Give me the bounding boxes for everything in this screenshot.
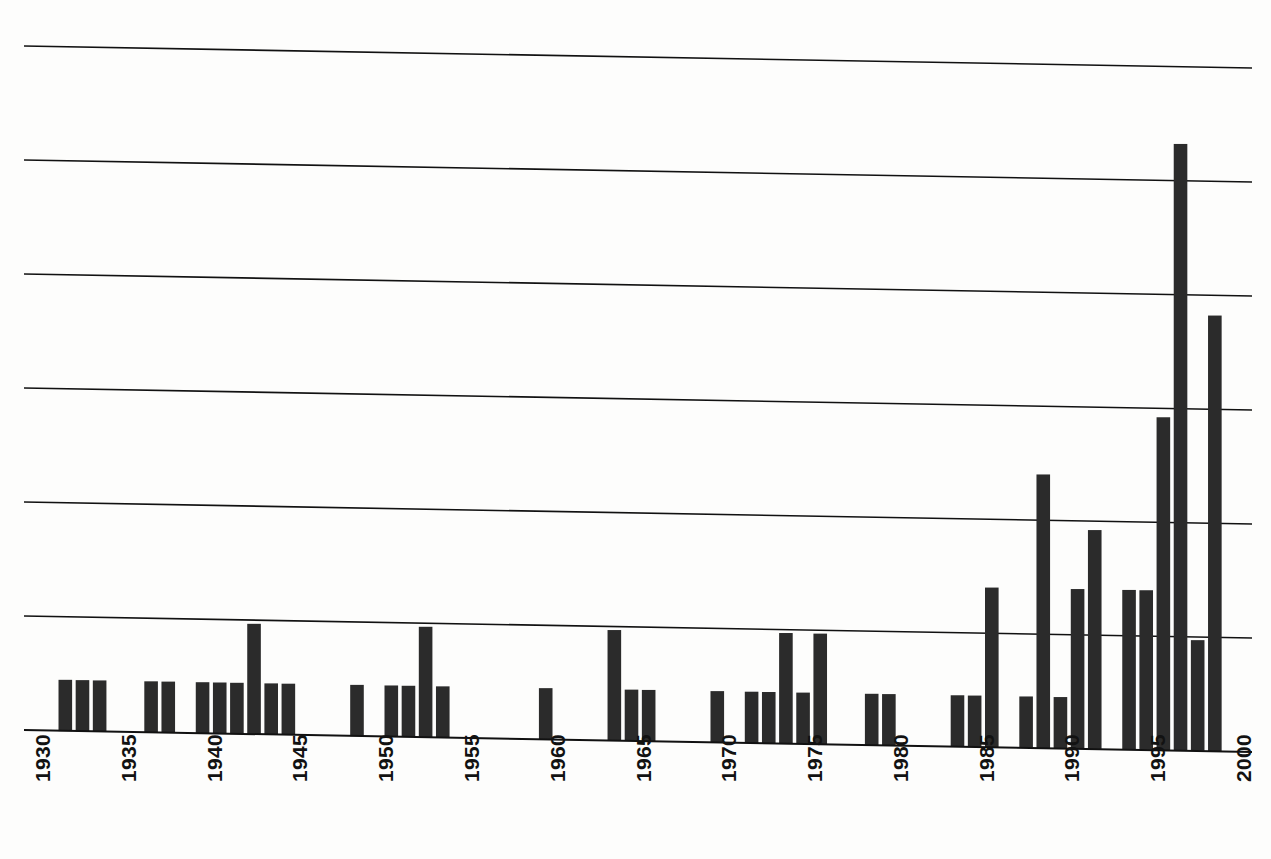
- x-tick-label-text: 1990: [1060, 734, 1084, 782]
- x-tick-label: 1985: [962, 752, 988, 848]
- bar: [813, 634, 827, 745]
- x-tick-label: 1950: [361, 752, 387, 848]
- x-tick-label-text: 1950: [374, 734, 398, 782]
- gridline: [24, 160, 1252, 182]
- x-axis-tick-labels: 1930193519401945195019551960196519701975…: [0, 752, 1271, 859]
- x-tick-label: 1955: [447, 752, 473, 848]
- x-tick-label-text: 1960: [546, 734, 570, 782]
- x-tick-label-text: 1985: [975, 734, 999, 782]
- x-tick-label: 1940: [190, 752, 216, 848]
- x-tick-label: 1990: [1047, 752, 1073, 848]
- x-tick-label: 1960: [533, 752, 559, 848]
- x-tick-label: 1945: [275, 752, 301, 848]
- bar: [1122, 590, 1136, 750]
- bar: [1019, 696, 1033, 747]
- bar: [539, 688, 553, 739]
- bar: [230, 683, 244, 734]
- bar: [779, 633, 793, 744]
- x-tick-label-text: 1945: [288, 734, 312, 782]
- bar: [76, 680, 90, 731]
- bar: [1191, 640, 1205, 751]
- gridline: [24, 616, 1252, 638]
- bar: [436, 686, 450, 737]
- bar: [161, 682, 175, 733]
- x-tick-label-text: 1955: [460, 734, 484, 782]
- x-tick-label-text: 1935: [117, 734, 141, 782]
- x-tick-label-text: 1940: [203, 734, 227, 782]
- bar: [282, 684, 296, 735]
- bar: [93, 680, 107, 731]
- x-tick-label: 1970: [704, 752, 730, 848]
- x-tick-label-text: 1970: [717, 734, 741, 782]
- x-tick-label: 1995: [1133, 752, 1159, 848]
- gridline: [24, 46, 1252, 68]
- bar: [1139, 590, 1153, 750]
- chart-page: 1930193519401945195019551960196519701975…: [0, 0, 1271, 859]
- gridline: [24, 274, 1252, 296]
- bar: [1036, 474, 1050, 748]
- bar: [985, 588, 999, 748]
- x-tick-label: 1980: [876, 752, 902, 848]
- x-tick-label-text: 1930: [31, 734, 55, 782]
- bar: [1157, 417, 1171, 750]
- x-tick-label-text: 2000: [1232, 734, 1256, 782]
- bar: [865, 694, 879, 745]
- bar: [247, 624, 261, 735]
- x-tick-label-text: 1980: [889, 734, 913, 782]
- bar: [1174, 144, 1188, 750]
- x-tick-label: 1930: [18, 752, 44, 848]
- bar: [144, 681, 158, 732]
- bars-group: [59, 144, 1222, 751]
- x-tick-label: 1965: [619, 752, 645, 848]
- gridline: [24, 388, 1252, 410]
- x-tick-label-text: 1965: [632, 734, 656, 782]
- bar: [59, 680, 73, 731]
- x-tick-label-text: 1995: [1146, 734, 1170, 782]
- bar: [951, 695, 965, 746]
- x-tick-label-text: 1975: [803, 734, 827, 782]
- bar: [196, 682, 210, 733]
- gridline: [24, 502, 1252, 524]
- bar: [762, 692, 776, 743]
- bar: [402, 686, 416, 737]
- bar: [419, 627, 433, 738]
- bar: [264, 683, 278, 734]
- bar: [385, 685, 399, 736]
- bar: [213, 683, 227, 734]
- x-tick-label: 1935: [104, 752, 130, 848]
- bar: [608, 630, 622, 741]
- bar: [1088, 530, 1102, 749]
- bar: [1071, 589, 1085, 749]
- bar: [745, 692, 759, 743]
- x-tick-label: 1975: [790, 752, 816, 848]
- plot-area: [0, 0, 1271, 760]
- bar: [1208, 316, 1222, 751]
- bar: [350, 685, 364, 736]
- bar-chart-svg: [0, 0, 1271, 760]
- x-tick-label: 2000: [1219, 752, 1245, 848]
- gridlines-group: [24, 46, 1252, 638]
